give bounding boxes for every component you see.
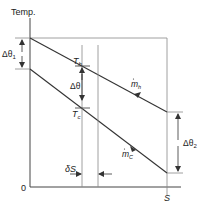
- hot-flow-dot-icon: [133, 78, 134, 79]
- delta-s-label: δS: [65, 164, 76, 174]
- delta-theta-label: Δθ: [70, 81, 81, 91]
- origin-label: 0: [21, 183, 26, 193]
- hot-stream-line: [30, 38, 167, 112]
- cold-flow-label: mC: [122, 149, 133, 160]
- cold-flow-dot-icon: [124, 148, 125, 149]
- y-axis-label: Temp.: [11, 7, 36, 17]
- cold-temp-label: Tc: [72, 109, 81, 120]
- heat-exchanger-diagram: Temp. 0 S Δθ1 Δθ2 Δθ Th Tc mh mC δS: [0, 0, 204, 207]
- cold-stream-line: [30, 69, 167, 173]
- hot-flow-label: mh: [131, 79, 141, 90]
- x-axis-end-label: S: [164, 193, 170, 203]
- hot-temp-label: Th: [73, 56, 83, 67]
- delta-theta1-label: Δθ1: [2, 49, 16, 60]
- delta-theta2-label: Δθ2: [183, 138, 197, 149]
